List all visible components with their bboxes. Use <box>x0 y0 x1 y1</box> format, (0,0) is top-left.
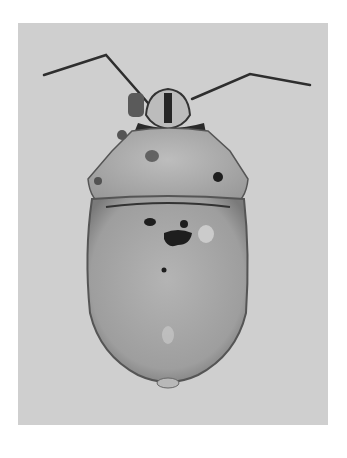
antenna-right <box>192 74 310 99</box>
abdomen-tip <box>157 378 179 388</box>
specimen-photo <box>18 23 328 425</box>
insect-illustration <box>18 23 328 425</box>
scutellum-body <box>87 196 247 382</box>
eye-left <box>128 93 144 117</box>
leg-stub <box>117 130 127 140</box>
